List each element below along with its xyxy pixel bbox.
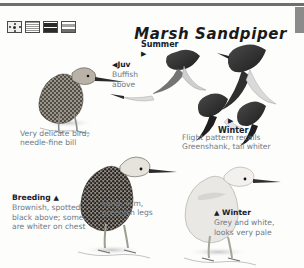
breeding-heading: Breeding	[12, 193, 51, 202]
juv-body: Buffish above	[112, 70, 138, 88]
juv-heading: Juv	[117, 60, 130, 69]
field-guide-page: Marsh Sandpiper	[0, 0, 304, 268]
range-map-icon[interactable]	[7, 21, 22, 33]
right-arrow-icon: ▶	[141, 50, 179, 59]
right-arrow-icon: ▶	[228, 117, 248, 126]
annotation-delicate-bill: Very delicate bird; needle-fine bill	[20, 129, 116, 148]
habitat-hatched-icon[interactable]	[25, 21, 40, 33]
winter-heading: Winter	[222, 208, 251, 217]
winter-body: Grey and white, looks very pale	[214, 218, 274, 236]
annotation-breeding: Breeding ▲ Brownish, spotted black above…	[12, 193, 94, 232]
breeding-body: Brownish, spotted black above; some are …	[12, 203, 85, 231]
annotation-flight-pattern: Flight pattern recalls Greenshank, tail …	[182, 133, 286, 152]
up-arrow-icon: ▲	[214, 209, 219, 217]
annotation-legs: Long, slim, greenish legs	[102, 199, 164, 218]
abundance-light-icon[interactable]	[61, 21, 76, 33]
status-icon-strip	[7, 21, 76, 33]
up-arrow-icon: ▲	[53, 194, 58, 202]
abundance-dark-icon[interactable]	[43, 21, 58, 33]
summer-heading: Summer	[141, 40, 179, 49]
annotation-juvenile: ◀Juv Buffish above	[112, 60, 158, 89]
page-top-rule	[0, 3, 304, 6]
winter-flight-bird-a	[217, 44, 276, 110]
annotation-winter: ▲ Winter Grey and white, looks very pale	[214, 208, 280, 237]
page-edge-tab	[295, 7, 304, 33]
annotation-summer: Summer ▶	[141, 40, 179, 60]
